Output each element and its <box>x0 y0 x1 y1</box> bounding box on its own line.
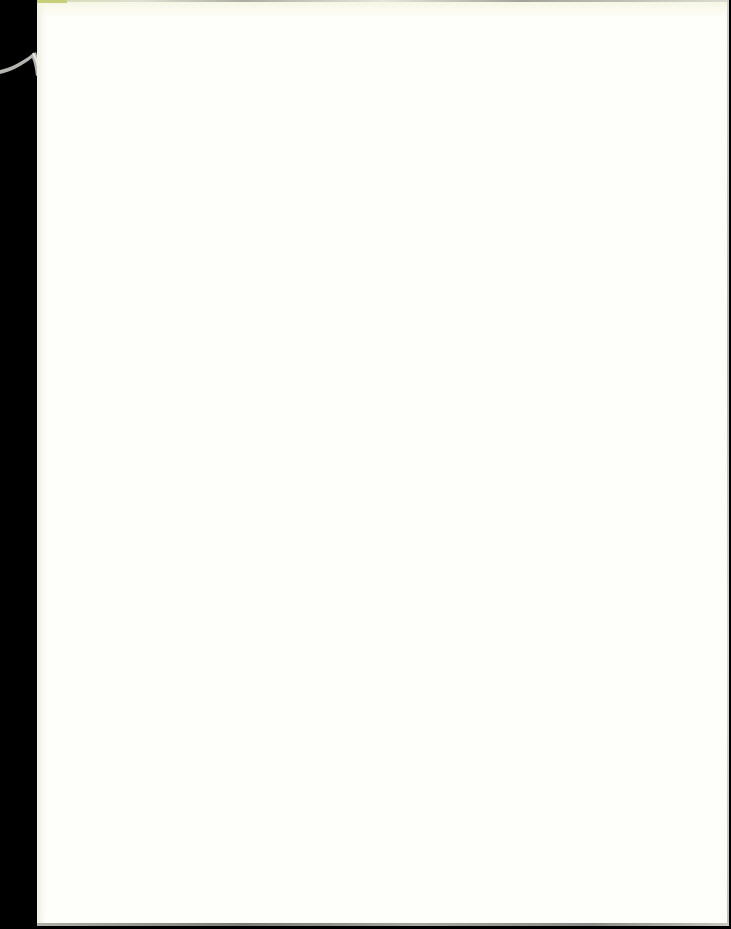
right-edge <box>727 0 729 926</box>
top-edge <box>37 0 729 2</box>
blank-paper-sheet <box>37 0 729 926</box>
top-shading <box>37 0 729 18</box>
bottom-edge <box>37 923 729 926</box>
scanned-page-image <box>0 0 731 929</box>
corner-tint <box>37 0 67 3</box>
